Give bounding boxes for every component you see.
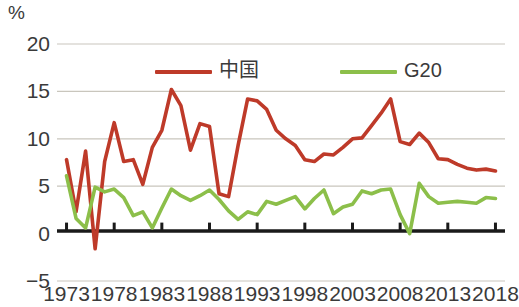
x-axis-tick-label: 2018 <box>472 283 519 304</box>
legend-label-g20: G20 <box>404 60 442 80</box>
series-line <box>67 176 496 234</box>
x-axis-tick-label: 2003 <box>329 283 376 304</box>
legend-swatch-g20 <box>340 70 397 74</box>
x-axis-tick-label: 2008 <box>377 283 424 304</box>
x-axis-tick-label: 1993 <box>234 283 281 304</box>
series-line <box>67 90 496 249</box>
legend-label-china: 中国 <box>219 60 259 80</box>
x-axis-tick-label: 2013 <box>424 283 471 304</box>
x-axis-tick-label: 1978 <box>91 283 138 304</box>
legend-swatch-china <box>155 70 212 74</box>
data-series-lines <box>67 90 496 249</box>
x-axis-tick-label: 1998 <box>281 283 328 304</box>
x-axis-tick-label: 1988 <box>186 283 233 304</box>
x-axis-tick-label: 1983 <box>138 283 185 304</box>
x-axis-labels: 1973197819831988199319982003200820132018 <box>0 283 514 307</box>
x-axis-tick-label: 1973 <box>43 283 90 304</box>
